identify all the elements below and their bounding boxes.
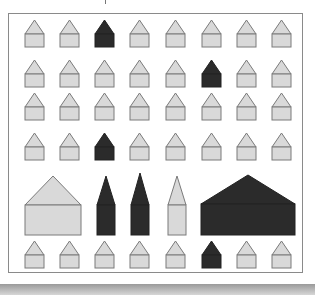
dark-house-icon xyxy=(202,60,221,87)
house-icon xyxy=(237,133,256,160)
house-icon xyxy=(272,20,291,47)
house-icon xyxy=(272,133,291,160)
house-icon xyxy=(130,133,149,160)
house-icon xyxy=(272,241,291,268)
dark-house-icon xyxy=(95,20,114,47)
dark-house-icon xyxy=(202,241,221,268)
light-tower-icon xyxy=(168,176,186,235)
house-icon xyxy=(60,241,79,268)
house-icon xyxy=(25,20,44,47)
house-icon xyxy=(166,93,185,120)
house-icon xyxy=(130,93,149,120)
house-icon xyxy=(130,20,149,47)
house-icon xyxy=(25,241,44,268)
large-light-house-icon xyxy=(25,176,81,235)
house-icon xyxy=(237,93,256,120)
house-icon xyxy=(237,20,256,47)
house-icon xyxy=(237,241,256,268)
dark-tower-1-icon xyxy=(97,176,115,235)
house-icon xyxy=(166,60,185,87)
house-icon xyxy=(95,241,114,268)
house-icon xyxy=(272,93,291,120)
house-icon xyxy=(25,133,44,160)
house-icon xyxy=(60,93,79,120)
house-icon xyxy=(202,20,221,47)
house-icon xyxy=(60,133,79,160)
house-icon xyxy=(166,20,185,47)
dark-house-icon xyxy=(95,133,114,160)
house-icon xyxy=(60,60,79,87)
house-icon xyxy=(25,93,44,120)
house-icon xyxy=(166,241,185,268)
house-icon xyxy=(202,93,221,120)
large-dark-house-icon xyxy=(201,175,295,235)
house-icon xyxy=(237,60,256,87)
house-icon xyxy=(202,133,221,160)
dark-tower-2-icon xyxy=(131,173,149,235)
house-icon xyxy=(130,241,149,268)
house-icon xyxy=(95,60,114,87)
house-icon xyxy=(272,60,291,87)
house-icon xyxy=(166,133,185,160)
house-icon xyxy=(60,20,79,47)
house-icon xyxy=(95,93,114,120)
house-icon xyxy=(25,60,44,87)
house-grid-canvas xyxy=(0,0,315,295)
house-icon xyxy=(130,60,149,87)
